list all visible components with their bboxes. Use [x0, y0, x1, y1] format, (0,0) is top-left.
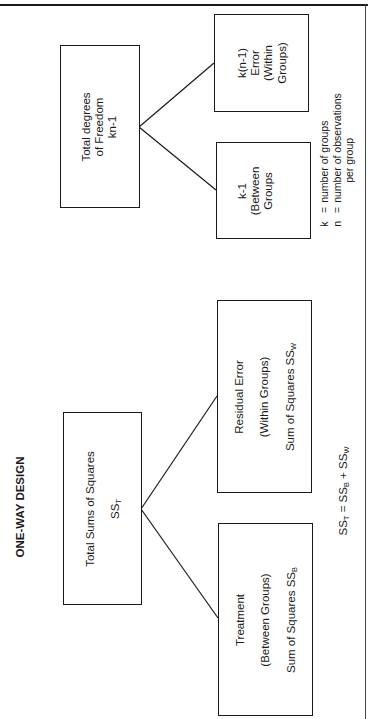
within-dof-line1: k(n-1) — [235, 42, 248, 84]
residual-ss-line2: (Within Groups) — [252, 342, 277, 450]
eq-term2: SS — [337, 454, 349, 469]
connector-ss-residual — [141, 396, 217, 509]
eq-term2-sub: W — [342, 447, 351, 454]
residual-ss-line1: Residual Error — [227, 342, 252, 450]
diagram-title: ONE-WAY DESIGN — [14, 457, 26, 558]
legend: k = number of groups n = number of obser… — [318, 93, 356, 227]
treatment-ss-line1: Treatment — [228, 566, 253, 672]
box-treatment-ss: Treatment (Between Groups) Sum of Square… — [218, 523, 313, 716]
legend-symbol: n — [331, 217, 344, 227]
residual-ss-line3: Sum of Squares SSW — [277, 342, 302, 450]
between-dof-line1: k-1 — [236, 166, 249, 215]
ss-label: Sum of Squares SS — [283, 350, 295, 451]
box-residual-ss: Residual Error (Within Groups) Sum of Sq… — [217, 300, 312, 493]
residual-ss-text: Residual Error (Within Groups) Sum of Sq… — [227, 342, 303, 450]
ss-equation: SST = SSB + SSW — [337, 447, 351, 536]
legend-text: number of groups — [318, 121, 331, 203]
treatment-ss-text: Treatment (Between Groups) Sum of Square… — [228, 566, 304, 672]
ss-subscript: W — [288, 342, 297, 349]
legend-text: number of observations — [331, 93, 344, 203]
total-ss-text: Total Sums of Squares SST — [77, 451, 128, 567]
total-dof-text: Total degrees of Freedom kn-1 — [80, 92, 120, 161]
legend-row-n: n = number of observations — [331, 93, 344, 227]
ss-subscript: B — [289, 566, 298, 571]
box-total-ss: Total Sums of Squares SST — [63, 412, 142, 605]
legend-text: per group — [343, 138, 356, 183]
box-within-dof: k(n-1) Error (Within Groups) — [214, 14, 309, 112]
legend-row-continuation: per group — [343, 93, 356, 227]
ss-symbol: SS — [109, 503, 121, 518]
total-ss-line2: SST — [103, 451, 128, 567]
eq-lhs: SS — [337, 520, 349, 535]
eq-equals: = — [337, 502, 349, 515]
between-dof-line2: (Between — [249, 166, 262, 215]
box-between-dof: k-1 (Between Groups — [216, 142, 311, 239]
eq-term1: SS — [337, 487, 349, 502]
legend-eq: = — [331, 203, 344, 217]
ss-subscript: T — [114, 499, 123, 504]
total-dof-line3: kn-1 — [107, 92, 120, 161]
total-ss-line1: Total Sums of Squares — [77, 451, 102, 567]
box-total-dof: Total degrees of Freedom kn-1 — [60, 45, 140, 208]
legend-symbol: k — [318, 217, 331, 227]
legend-row-k: k = number of groups — [318, 93, 331, 227]
eq-term1-sub: B — [342, 482, 351, 487]
treatment-ss-line2: (Between Groups) — [253, 566, 278, 672]
ss-label: Sum of Squares SS — [284, 572, 296, 673]
between-dof-line3: Groups — [262, 166, 275, 215]
within-dof-line2: Error — [248, 42, 261, 84]
eq-plus: + — [337, 469, 349, 482]
total-dof-line1: Total degrees — [80, 92, 93, 161]
treatment-ss-line3: Sum of Squares SSB — [278, 566, 303, 672]
total-dof-line2: of Freedom — [93, 92, 106, 161]
connector-dof-within — [139, 63, 214, 127]
legend-eq: = — [318, 203, 331, 217]
within-dof-line3: (Within — [262, 42, 275, 84]
between-dof-text: k-1 (Between Groups — [236, 166, 276, 215]
eq-lhs-sub: T — [342, 516, 351, 521]
within-dof-line4: Groups) — [275, 42, 288, 84]
connector-dof-between — [139, 127, 216, 190]
connector-ss-treatment — [141, 509, 218, 618]
within-dof-text: k(n-1) Error (Within Groups) — [235, 42, 288, 84]
